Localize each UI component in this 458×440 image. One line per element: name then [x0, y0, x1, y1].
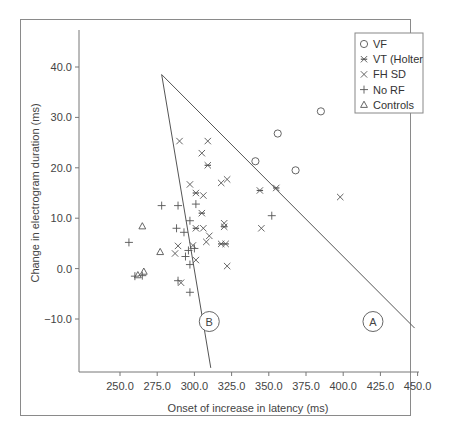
x-tick-label: 375.0	[292, 380, 320, 392]
x-tick-label: 450.0	[404, 380, 432, 392]
point-triangle	[157, 248, 164, 254]
point-plus	[138, 272, 146, 280]
point-x	[175, 243, 181, 249]
x-tick-label: 250.0	[106, 380, 134, 392]
x-tick-label: 425.0	[367, 380, 395, 392]
scatter-chart: 40.030.020.010.00.0−10.0 250.0275.0300.0…	[0, 0, 458, 440]
annotation-label-a: A	[369, 316, 377, 328]
x-tick-label: 350.0	[255, 380, 283, 392]
point-x	[221, 220, 227, 226]
point-plus	[186, 217, 194, 225]
point-plus	[125, 238, 133, 246]
point-x	[205, 138, 211, 144]
point-circle	[252, 158, 259, 165]
point-x	[337, 194, 343, 200]
point-x	[193, 257, 199, 263]
x-tick-label: 325.0	[218, 380, 246, 392]
point-triangle	[140, 268, 147, 274]
y-tick-label: 40.0	[51, 61, 72, 73]
y-tick-label: 30.0	[51, 111, 72, 123]
point-circle	[292, 167, 299, 174]
annotation-label-b: B	[206, 316, 213, 328]
x-tick-label: 275.0	[143, 380, 171, 392]
point-plus	[158, 202, 166, 210]
point-x	[206, 233, 212, 239]
point-x	[203, 239, 209, 245]
point-x	[224, 176, 230, 182]
point-plus	[186, 288, 194, 296]
y-axis-label: Change in electrogram duration (ms)	[29, 103, 41, 282]
legend-item-label: No RF	[373, 84, 405, 96]
point-x	[200, 192, 206, 198]
point-asterisk-x	[199, 210, 205, 216]
point-asterisk-x	[193, 190, 199, 196]
point-plus	[192, 200, 200, 208]
point-plus	[174, 202, 182, 210]
legend-item-label: FH SD	[373, 68, 406, 80]
y-tick-label: 0.0	[57, 263, 72, 275]
x-tick-label: 400.0	[329, 380, 357, 392]
point-circle	[274, 130, 281, 137]
x-ticks: 250.0275.0300.0325.0350.0375.0400.0425.0…	[106, 372, 431, 392]
legend-item-label: VT (Holter	[373, 53, 423, 65]
region-annotations: AB	[199, 312, 383, 332]
y-tick-label: 10.0	[51, 212, 72, 224]
point-plus	[173, 224, 181, 232]
point-asterisk-x	[273, 185, 279, 191]
point-x	[218, 180, 224, 186]
point-plus	[180, 228, 188, 236]
point-asterisk-x	[205, 162, 211, 168]
point-circle	[317, 108, 324, 115]
y-ticks: 40.030.020.010.00.0−10.0	[44, 61, 79, 325]
y-tick-label: 20.0	[51, 162, 72, 174]
legend-item-label: VF	[373, 38, 387, 50]
point-x	[199, 150, 205, 156]
point-x	[200, 225, 206, 231]
legend-item-label: Controls	[373, 99, 414, 111]
point-plus	[268, 212, 276, 220]
point-asterisk-x	[222, 241, 228, 247]
point-asterisk-x	[221, 224, 227, 230]
point-triangle	[139, 223, 146, 229]
point-x	[187, 181, 193, 187]
point-x	[224, 263, 230, 269]
y-tick-label: −10.0	[44, 313, 72, 325]
legend: VFVT (HolterFH SDNo RFControls	[355, 33, 423, 113]
data-points	[125, 108, 343, 297]
x-tick-label: 300.0	[181, 380, 209, 392]
point-x	[258, 225, 264, 231]
point-x	[176, 138, 182, 144]
point-asterisk-x	[193, 225, 199, 231]
point-asterisk-x	[257, 187, 263, 193]
point-x	[172, 250, 178, 256]
x-axis-label: Onset of increase in latency (ms)	[168, 402, 329, 414]
